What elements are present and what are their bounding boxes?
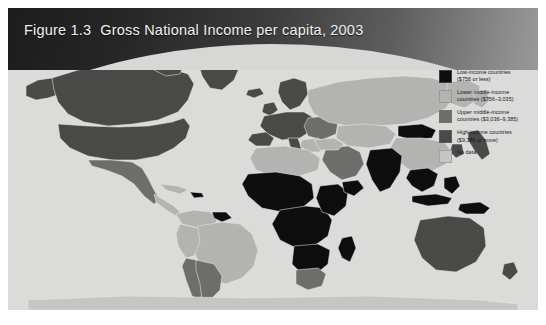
legend-swatch-low-income (439, 70, 452, 83)
legend-label-high-income-line2: ($9,386 or more) (457, 137, 512, 144)
legend-item-high-income: High-income countries ($9,386 or more) (439, 129, 537, 144)
legend-label-low-income-line1: Low-income countries (457, 69, 510, 75)
legend-label-high-income-line1: High-income countries (457, 129, 512, 135)
legend-label-lower-middle-income-line2: countries ($756–3,035) (457, 96, 514, 103)
legend-swatch-lower-middle-income (439, 90, 452, 103)
figure-number: Figure 1.3 (24, 22, 91, 38)
figure-title: Figure 1.3Gross National Income per capi… (24, 22, 363, 38)
legend-label-upper-middle-income-line1: Upper middle-income (457, 109, 509, 115)
figure-header-band (8, 8, 538, 70)
figure-title-text: Gross National Income per capita, 2003 (100, 22, 363, 38)
legend-label-high-income: High-income countries ($9,386 or more) (457, 129, 512, 144)
legend-item-low-income: Low-income countries ($756 or less) (439, 69, 537, 84)
figure-panel: Figure 1.3Gross National Income per capi… (8, 8, 538, 310)
legend-label-low-income: Low-income countries ($756 or less) (457, 69, 510, 84)
legend-label-no-data-line1: No data (457, 149, 476, 155)
legend-label-lower-middle-income-line1: Lower middle-income (457, 89, 509, 95)
legend-item-upper-middle-income: Upper middle-income countries ($3,036–9,… (439, 109, 537, 124)
map-legend: Low-income countries ($756 or less) Lowe… (439, 69, 537, 169)
legend-item-no-data: No data (439, 149, 537, 163)
legend-label-upper-middle-income-line2: countries ($3,036–9,385) (457, 116, 518, 123)
legend-label-no-data: No data (457, 149, 476, 156)
figure-page: Figure 1.3Gross National Income per capi… (0, 0, 546, 325)
legend-label-low-income-line2: ($756 or less) (457, 76, 510, 83)
legend-swatch-no-data (439, 150, 452, 163)
legend-swatch-high-income (439, 130, 452, 143)
legend-label-upper-middle-income: Upper middle-income countries ($3,036–9,… (457, 109, 518, 124)
header-curve-decoration (8, 44, 538, 70)
legend-swatch-upper-middle-income (439, 110, 452, 123)
legend-item-lower-middle-income: Lower middle-income countries ($756–3,03… (439, 89, 537, 104)
legend-label-lower-middle-income: Lower middle-income countries ($756–3,03… (457, 89, 514, 104)
